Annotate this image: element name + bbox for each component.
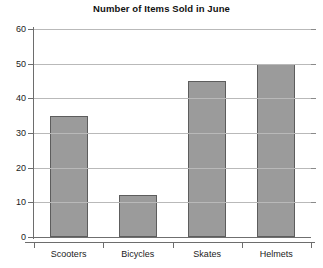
y-axis-tick-right [311,29,316,30]
x-axis-category-label: Helmets [260,249,293,259]
plot-area: 0102030405060 [34,29,311,237]
y-axis-tick [28,29,34,30]
y-axis-tick [28,133,34,134]
x-axis-tick [242,242,243,248]
y-axis-tick-right [311,98,316,99]
gridline [34,202,311,203]
x-axis-line [25,242,315,243]
y-axis-tick [28,237,34,238]
y-axis-tick [28,168,34,169]
gridline [34,64,311,65]
gridline [34,168,311,169]
gridline [34,237,311,238]
gridline [34,29,311,30]
gridline [34,133,311,134]
x-axis-tick [103,242,104,248]
y-axis-tick-right [311,133,316,134]
x-axis-category-label: Scooters [51,249,87,259]
y-axis-tick [28,202,34,203]
y-axis-label: 20 [16,163,26,173]
chart-title: Number of Items Sold in June [0,3,323,14]
y-axis-tick [28,64,34,65]
y-axis-label: 40 [16,93,26,103]
y-axis-label: 10 [16,197,26,207]
y-axis-label: 0 [21,232,26,242]
gridline [34,98,311,99]
x-axis-tick [173,242,174,248]
bar-chart: Number of Items Sold in June 01020304050… [0,0,323,268]
bar [188,81,226,237]
y-axis-label: 60 [16,24,26,34]
x-axis-category-label: Skates [193,249,221,259]
bar [257,64,295,237]
x-axis-tick [311,242,312,248]
x-axis-category-label: Bicycles [121,249,154,259]
y-axis-label: 50 [16,59,26,69]
y-axis-tick-right [311,168,316,169]
y-axis-tick [28,98,34,99]
y-axis-label: 30 [16,128,26,138]
y-axis-tick-right [311,202,316,203]
y-axis-tick-right [311,64,316,65]
x-axis-tick [34,242,35,248]
